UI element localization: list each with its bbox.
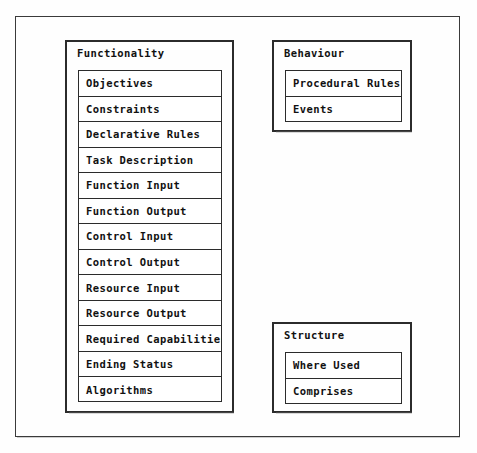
row-list-behaviour: Procedural Rules Events	[285, 70, 402, 122]
list-item[interactable]: Declarative Rules	[79, 122, 221, 148]
list-item[interactable]: Where Used	[286, 353, 401, 379]
group-title-structure: Structure	[284, 329, 345, 341]
list-item[interactable]: Control Output	[79, 250, 221, 276]
list-item[interactable]: Ending Status	[79, 352, 221, 378]
group-title-behaviour: Behaviour	[284, 47, 345, 59]
list-item[interactable]: Comprises	[286, 379, 401, 405]
list-item[interactable]: Procedural Rules	[286, 71, 401, 97]
group-title-functionality: Functionality	[77, 47, 164, 59]
outer-frame: Functionality Objectives Constraints Dec…	[15, 16, 460, 437]
row-list-functionality: Objectives Constraints Declarative Rules…	[78, 70, 222, 402]
list-item[interactable]: Required Capabilities	[79, 326, 221, 352]
list-item[interactable]: Objectives	[79, 71, 221, 97]
list-item[interactable]: Control Input	[79, 224, 221, 250]
row-list-structure: Where Used Comprises	[285, 352, 402, 404]
list-item[interactable]: Constraints	[79, 97, 221, 123]
list-item[interactable]: Algorithms	[79, 377, 221, 403]
group-box-functionality[interactable]: Functionality Objectives Constraints Dec…	[65, 40, 234, 413]
list-item[interactable]: Resource Output	[79, 301, 221, 327]
list-item[interactable]: Resource Input	[79, 275, 221, 301]
diagram-canvas: Functionality Objectives Constraints Dec…	[0, 0, 477, 453]
list-item[interactable]: Function Output	[79, 199, 221, 225]
group-box-structure[interactable]: Structure Where Used Comprises	[272, 322, 412, 413]
list-item[interactable]: Events	[286, 97, 401, 123]
list-item[interactable]: Task Description	[79, 148, 221, 174]
group-box-behaviour[interactable]: Behaviour Procedural Rules Events	[272, 40, 412, 132]
list-item[interactable]: Function Input	[79, 173, 221, 199]
